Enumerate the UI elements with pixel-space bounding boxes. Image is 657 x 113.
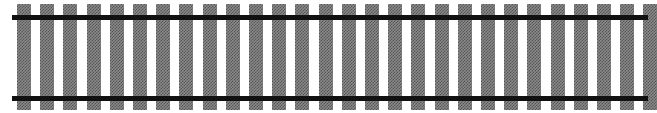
top-rail [12,15,648,20]
bottom-rail [12,96,648,101]
